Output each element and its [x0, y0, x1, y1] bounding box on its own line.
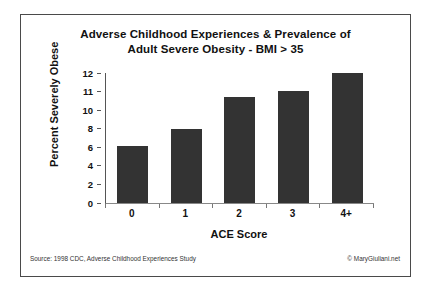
bar-slot	[160, 73, 214, 203]
bar-slot	[213, 73, 267, 203]
y-axis-tick: 8	[67, 123, 101, 135]
chart-title-line-2: Adult Severe Obesity - BMI > 35	[21, 42, 410, 57]
bar	[171, 129, 202, 203]
y-axis-tick: 2	[67, 178, 101, 190]
y-axis-tick-mark	[97, 110, 101, 111]
bar	[278, 91, 309, 203]
x-axis-tick-labels: 01234+	[105, 208, 373, 219]
y-axis-tick-label: 6	[88, 142, 97, 153]
x-axis-tick-mark	[373, 204, 374, 208]
y-axis-tick: 0	[67, 197, 101, 209]
y-axis-tick-mark	[97, 184, 101, 185]
x-axis-tick-label: 2	[212, 208, 266, 219]
copyright-note: © MaryGiuliani.net	[347, 255, 400, 262]
y-axis-tick: 4	[67, 160, 101, 172]
y-axis-tick-label: 2	[88, 179, 97, 190]
y-axis-ticks: 12111086420	[67, 73, 101, 203]
chart-title: Adverse Childhood Experiences & Prevalen…	[21, 27, 410, 57]
y-axis-tick-mark	[97, 203, 101, 204]
y-axis-tick-mark	[97, 91, 101, 92]
y-axis-tick-mark	[97, 147, 101, 148]
x-axis-tick-label: 1	[159, 208, 213, 219]
bar	[224, 97, 255, 203]
y-axis-tick-label: 12	[82, 68, 97, 79]
bar-series	[106, 73, 374, 203]
bar	[332, 73, 363, 203]
bar-slot	[267, 73, 321, 203]
y-axis-tick-label: 0	[88, 198, 97, 209]
bar-slot	[320, 73, 374, 203]
x-axis-title: ACE Score	[105, 228, 373, 240]
bar	[117, 146, 148, 203]
plot-wrapper: Percent Severely Obese 12111086420 01234…	[21, 73, 412, 233]
y-axis-tick: 12	[67, 67, 101, 79]
y-axis-tick: 10	[67, 104, 101, 116]
y-axis-tick-mark	[97, 128, 101, 129]
y-axis-tick-label: 8	[88, 123, 97, 134]
plot-area	[105, 73, 374, 204]
chart-footer: Source: 1998 CDC, Adverse Childhood Expe…	[21, 255, 410, 267]
source-note: Source: 1998 CDC, Adverse Childhood Expe…	[30, 255, 196, 262]
y-axis-tick-label: 4	[88, 160, 97, 171]
y-axis-tick-label: 10	[82, 105, 97, 116]
y-axis-tick-label: 11	[83, 86, 97, 97]
y-axis-tick-mark	[97, 165, 101, 166]
chart-figure: Adverse Childhood Experiences & Prevalen…	[20, 14, 411, 277]
x-axis-tick-label: 4+	[319, 208, 373, 219]
x-axis-tick-label: 3	[266, 208, 320, 219]
chart-title-line-1: Adverse Childhood Experiences & Prevalen…	[21, 27, 410, 42]
y-axis-title: Percent Severely Obese	[48, 47, 60, 167]
bar-slot	[106, 73, 160, 203]
y-axis-tick: 11	[67, 86, 101, 98]
y-axis-tick: 6	[67, 141, 101, 153]
y-axis-tick-mark	[97, 73, 101, 74]
x-axis-tick-label: 0	[105, 208, 159, 219]
